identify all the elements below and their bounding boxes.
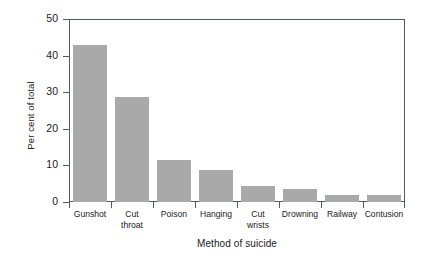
bar-hanging — [199, 170, 233, 202]
y-tick-label: 30 — [18, 86, 58, 97]
bar-cut-wrists — [241, 186, 275, 202]
x-tick-mark — [321, 202, 322, 208]
y-tick-mark — [63, 165, 69, 166]
x-tick-mark — [237, 202, 238, 208]
x-tick-mark — [404, 202, 405, 208]
bar-cut-throat — [115, 97, 149, 202]
y-tick-mark — [63, 56, 69, 57]
x-tick-mark — [111, 202, 112, 208]
bar-railway — [325, 195, 359, 202]
y-tick-label: 0 — [18, 196, 58, 207]
y-tick-mark — [63, 19, 69, 20]
x-tick-mark — [279, 202, 280, 208]
x-category-label-cut-wrists: Cut wrists — [234, 209, 282, 230]
x-tick-mark — [195, 202, 196, 208]
y-tick-label: 50 — [18, 13, 58, 24]
x-tick-mark — [69, 202, 70, 208]
x-category-label-cut-throat: Cut throat — [108, 209, 156, 230]
x-axis-title: Method of suicide — [69, 238, 405, 249]
y-tick-label: 40 — [18, 50, 58, 61]
bar-poison — [157, 160, 191, 202]
bar-drowning — [283, 189, 317, 203]
bar-contusion — [367, 195, 401, 202]
x-category-label-contusion: Contusion — [358, 209, 410, 220]
y-tick-label: 20 — [18, 123, 58, 134]
x-tick-mark — [363, 202, 364, 208]
y-tick-mark — [63, 92, 69, 93]
x-category-label-hanging: Hanging — [192, 209, 240, 220]
y-tick-mark — [63, 129, 69, 130]
y-tick-label: 10 — [18, 159, 58, 170]
x-tick-mark — [153, 202, 154, 208]
bar-chart-figure: Per cent of total 0 10 20 30 40 50 Gunsh… — [0, 0, 424, 263]
x-category-label-poison: Poison — [150, 209, 198, 220]
x-category-label-gunshot: Gunshot — [66, 209, 114, 220]
bar-gunshot — [73, 45, 107, 202]
x-category-label-drowning: Drowning — [276, 209, 324, 220]
